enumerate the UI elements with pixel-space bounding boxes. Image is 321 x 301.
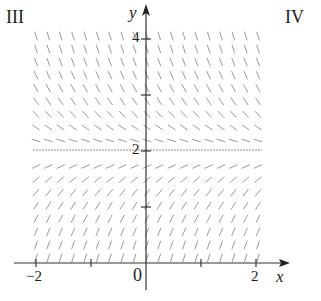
slope-segment — [158, 32, 161, 41]
slope-segment — [257, 32, 260, 41]
slope-segment — [120, 98, 125, 105]
slope-segment — [169, 202, 174, 210]
slope-segment — [170, 58, 173, 66]
slope-segment — [257, 254, 260, 263]
slope-segment — [182, 202, 187, 210]
slope-segment — [34, 215, 38, 223]
slope-segment — [132, 202, 137, 210]
slope-segment — [157, 84, 161, 92]
slope-segment — [170, 254, 173, 263]
slope-segment — [133, 45, 136, 54]
slope-segment — [58, 111, 64, 118]
slope-segment — [70, 98, 75, 105]
slope-segment — [45, 125, 52, 130]
slope-segment — [96, 228, 100, 236]
slope-segment — [107, 177, 114, 183]
slope-segment — [45, 111, 51, 118]
slope-segment — [195, 241, 198, 250]
slope-segment — [155, 139, 164, 142]
slope-segment — [132, 111, 138, 118]
slope-segment — [206, 98, 211, 105]
slope-segment — [109, 32, 112, 41]
slope-segment — [229, 139, 238, 142]
slope-segment — [59, 71, 63, 79]
slope-segment — [82, 125, 89, 130]
slope-segment — [44, 165, 52, 169]
slope-segment — [96, 215, 100, 223]
slope-segment — [84, 58, 87, 66]
slope-segment — [230, 125, 237, 130]
slope-segment — [168, 165, 176, 169]
slope-segment — [206, 189, 212, 196]
slope-segment — [170, 71, 174, 79]
slope-segment — [44, 139, 53, 142]
slope-segment — [120, 84, 124, 92]
slope-segment — [231, 215, 235, 223]
slope-segment — [108, 58, 111, 66]
slope-segment — [156, 111, 162, 118]
slope-segment — [47, 254, 50, 263]
slope-segment — [118, 165, 126, 169]
slope-segment — [94, 125, 101, 130]
slope-segment — [83, 98, 88, 105]
slope-segment — [143, 125, 150, 130]
slope-segment — [169, 111, 175, 118]
x-axis-label: x — [276, 267, 284, 287]
slope-segment — [35, 45, 38, 54]
slope-segment — [58, 98, 63, 105]
slope-segment — [218, 98, 223, 105]
slope-segment — [84, 254, 87, 263]
slope-segment — [95, 98, 100, 105]
slope-segment — [219, 215, 223, 223]
slope-segment — [143, 165, 151, 169]
slope-segment — [109, 241, 112, 250]
slope-segment — [119, 125, 126, 130]
slope-segment — [83, 84, 87, 92]
slope-segment — [232, 228, 236, 236]
slope-segment — [57, 125, 64, 130]
slope-segment — [34, 58, 37, 66]
slope-segment — [244, 228, 248, 236]
slope-segment — [59, 32, 62, 41]
slope-segment — [46, 202, 51, 210]
slope-segment — [83, 202, 88, 210]
slope-segment — [232, 58, 235, 66]
slope-segment — [121, 241, 124, 250]
slope-segment — [158, 241, 161, 250]
slope-segment — [59, 254, 62, 263]
slope-segment — [58, 189, 64, 196]
slope-segment — [254, 165, 262, 169]
slope-segment — [218, 111, 224, 118]
slope-segment — [96, 241, 99, 250]
slope-segment — [59, 84, 63, 92]
slope-segment — [257, 45, 260, 54]
y-tick-label-2: 2 — [132, 141, 140, 158]
slope-segment — [156, 177, 163, 183]
slope-segment — [144, 98, 149, 105]
slope-segment — [70, 177, 77, 183]
slope-segment — [244, 254, 247, 263]
slope-segment — [34, 84, 38, 92]
slope-segment — [133, 228, 137, 236]
slope-segment — [256, 228, 260, 236]
slope-segment — [132, 98, 137, 105]
slope-segment — [194, 189, 200, 196]
slope-segment — [157, 189, 163, 196]
slope-segment — [193, 111, 199, 118]
slope-segment — [144, 111, 150, 118]
slope-segment — [81, 139, 90, 142]
slope-segment — [256, 84, 260, 92]
slope-segment — [143, 139, 152, 142]
slope-segment — [106, 125, 113, 130]
slope-segment — [195, 228, 199, 236]
slope-segment — [81, 165, 89, 169]
slope-segment — [207, 71, 211, 79]
slope-segment — [33, 177, 40, 183]
slope-segment — [194, 84, 198, 92]
slope-segment — [96, 71, 100, 79]
slope-segment — [59, 228, 63, 236]
slope-segment — [158, 254, 161, 263]
slope-segment — [170, 228, 174, 236]
slope-segment — [181, 98, 186, 105]
slope-segment — [181, 111, 187, 118]
